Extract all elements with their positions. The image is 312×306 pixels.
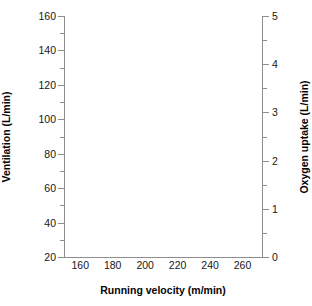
right-axis-minor-tick [263,40,267,41]
right-axis-ticklabel: 3 [272,107,278,118]
left-axis-minor-tick [60,137,64,138]
right-axis-ticklabel: 0 [272,252,278,263]
right-axis-ticklabel: 2 [272,155,278,166]
right-axis-tick [263,16,269,17]
x-axis-ticklabel: 160 [71,260,89,271]
left-axis-tick [58,223,64,224]
plot-area [64,16,262,257]
right-axis-minor-tick [263,233,267,234]
right-axis-title: Oxygen uptake (L/min) [298,80,310,193]
x-axis-ticklabel: 240 [201,260,219,271]
right-axis-minor-tick [263,137,267,138]
x-axis-ticklabel: 200 [136,260,154,271]
left-axis-minor-tick [60,68,64,69]
left-axis-tick [58,85,64,86]
left-axis-spine [64,16,65,258]
left-axis-ticklabel: 160 [38,11,56,22]
left-axis-ticklabel: 60 [44,183,56,194]
left-axis-ticklabel: 120 [38,79,56,90]
x-axis-ticklabel: 260 [234,260,252,271]
bottom-axis-spine [64,257,263,258]
right-axis-tick [263,64,269,65]
x-axis-ticklabel: 220 [169,260,187,271]
right-axis-ticklabel: 1 [272,203,278,214]
left-axis-minor-tick [60,205,64,206]
right-axis-ticklabel: 4 [272,59,278,70]
right-axis-tick [263,112,269,113]
x-axis-ticklabel: 180 [104,260,122,271]
x-axis-title: Running velocity (m/min) [100,284,225,296]
right-axis-tick [263,209,269,210]
left-axis-tick [58,257,64,258]
left-axis-tick [58,119,64,120]
left-axis-tick [58,50,64,51]
left-axis-ticklabel: 100 [38,114,56,125]
right-axis-minor-tick [263,185,267,186]
left-axis-ticklabel: 40 [44,217,56,228]
left-axis-ticklabel: 140 [38,45,56,56]
left-axis-ticklabel: 20 [44,252,56,263]
left-axis-minor-tick [60,171,64,172]
right-axis-ticklabel: 5 [272,11,278,22]
left-axis-ticklabel: 80 [44,148,56,159]
left-axis-tick [58,154,64,155]
right-axis-minor-tick [263,88,267,89]
left-axis-tick [58,188,64,189]
left-axis-minor-tick [60,102,64,103]
chart-figure: 2040608010012014016001234516018020022024… [0,0,312,306]
left-axis-minor-tick [60,240,64,241]
left-axis-title: Ventilation (L/min) [0,92,12,183]
left-axis-minor-tick [60,33,64,34]
right-axis-tick [263,161,269,162]
left-axis-tick [58,16,64,17]
right-axis-tick [263,257,269,258]
